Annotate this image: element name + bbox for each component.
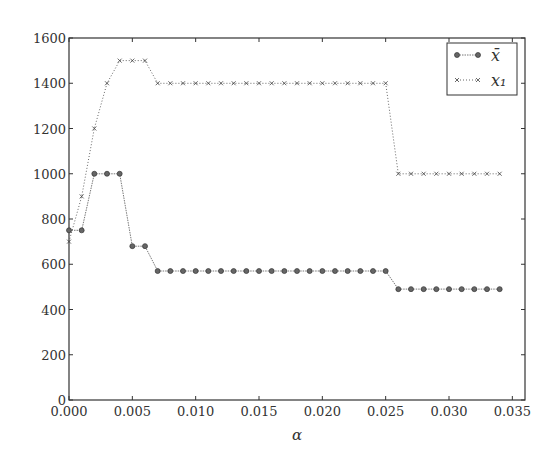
line-chart: 0.0000.0050.0100.0150.0200.0250.0300.035… (0, 0, 555, 459)
data-point (105, 171, 110, 176)
legend: x̄ x₁ (447, 43, 517, 95)
x-tick-label: 0.025 (367, 404, 404, 419)
data-point (79, 228, 84, 233)
x-tick-label: 0.020 (304, 404, 341, 419)
data-point (396, 287, 401, 292)
data-point (244, 269, 249, 274)
y-tick-label: 400 (41, 303, 66, 318)
series-layer (67, 59, 503, 292)
data-point (168, 269, 173, 274)
data-point (270, 81, 274, 85)
data-point (156, 81, 160, 85)
x-tick-label: 0.015 (240, 404, 277, 419)
data-point (434, 172, 438, 176)
data-point (155, 269, 160, 274)
data-point (371, 269, 376, 274)
data-point (67, 228, 72, 233)
data-point (118, 59, 122, 63)
data-point (497, 287, 502, 292)
data-point (485, 172, 489, 176)
data-point (383, 269, 388, 274)
x-tick-label: 0.035 (494, 404, 531, 419)
data-point (282, 269, 287, 274)
y-tick-label: 1600 (33, 31, 66, 46)
x-tick-label: 0.030 (430, 404, 467, 419)
data-point (219, 81, 223, 85)
data-point (105, 81, 109, 85)
data-point (295, 269, 300, 274)
data-point (346, 81, 350, 85)
y-tick-label: 1200 (33, 122, 66, 137)
data-point (232, 81, 236, 85)
data-point (307, 269, 312, 274)
data-point (231, 269, 236, 274)
data-point (117, 171, 122, 176)
legend-label-xbar: x̄ (491, 46, 500, 65)
data-point (498, 172, 502, 176)
x-tick-label: 0.010 (177, 404, 214, 419)
data-point (434, 287, 439, 292)
legend-label-x1: x₁ (491, 71, 506, 90)
y-tick-label: 600 (41, 257, 66, 272)
data-point (358, 269, 363, 274)
data-point (130, 59, 134, 63)
data-point (320, 269, 325, 274)
data-point (333, 269, 338, 274)
data-point (384, 81, 388, 85)
data-point (143, 59, 147, 63)
data-point (447, 172, 451, 176)
y-tick-label: 1000 (33, 167, 66, 182)
y-tick-label: 1400 (33, 76, 66, 91)
data-point (130, 244, 135, 249)
data-point (143, 244, 148, 249)
data-point (485, 287, 490, 292)
data-point (168, 81, 172, 85)
y-tick-label: 200 (41, 348, 66, 363)
data-point (472, 172, 476, 176)
data-point (422, 172, 426, 176)
data-point (447, 287, 452, 292)
data-point (269, 269, 274, 274)
data-point (409, 287, 414, 292)
x-tick-label: 0.000 (50, 404, 87, 419)
data-point (421, 287, 426, 292)
y-tick-label: 800 (41, 212, 66, 227)
data-point (193, 269, 198, 274)
x-tick-label: 0.005 (114, 404, 151, 419)
data-point (206, 81, 210, 85)
data-point (345, 269, 350, 274)
data-point (320, 81, 324, 85)
y-tick-label: 0 (58, 393, 66, 408)
data-point (472, 287, 477, 292)
data-point (219, 269, 224, 274)
data-point (257, 269, 262, 274)
series-xbar (67, 171, 503, 291)
data-point (181, 269, 186, 274)
x-axis-label: α (292, 426, 302, 444)
data-point (459, 287, 464, 292)
series-x1 (67, 59, 502, 244)
data-point (282, 81, 286, 85)
data-point (206, 269, 211, 274)
data-point (333, 81, 337, 85)
data-point (92, 171, 97, 176)
